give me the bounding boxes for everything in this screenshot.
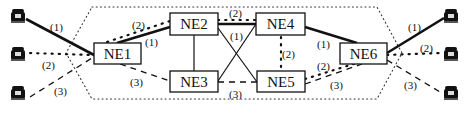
node-ne2: NE2 [170,13,218,35]
node-label: NE2 [180,16,208,32]
path-label: (2) [42,59,55,72]
path-label: (1) [50,21,63,34]
path-label: (1) [230,30,243,43]
path-label: (1) [408,21,421,34]
node-ne6: NE6 [340,43,387,64]
node-ne1: NE1 [94,43,141,64]
node-label: NE6 [350,46,378,62]
path-label: (3) [330,79,343,92]
path-label: (2) [317,60,330,73]
network-diagram: NE1 NE2 NE3 NE4 NE5 NE6 [0,0,470,114]
telephone-icon [444,47,458,61]
path-label: (3) [404,79,417,92]
path-label: (2) [282,48,295,61]
path-label: (1) [145,36,158,49]
path3-ne1-ne3 [120,64,170,81]
node-label: NE4 [267,16,295,32]
path-label: (2) [229,7,242,20]
path-label: (3) [130,76,143,89]
path-label: (3) [54,85,67,98]
node-label: NE1 [104,46,132,62]
path-label: (2) [420,42,433,55]
telephone-icon [11,47,25,61]
telephone-icon [444,86,458,100]
node-label: NE3 [180,74,208,90]
telephone-icon [11,9,25,23]
node-ne5: NE5 [257,71,305,92]
node-ne4: NE4 [256,13,305,35]
telephone-icon [444,9,458,23]
path-label: (1) [317,38,330,51]
telephone-icon [11,86,25,100]
path-label: (2) [132,19,145,32]
node-label: NE5 [267,74,295,90]
node-ne3: NE3 [170,71,218,92]
path-label: (3) [229,88,242,101]
path1-ne4-ne6 [305,27,357,43]
path2-left-terminal-ne1 [30,53,90,55]
